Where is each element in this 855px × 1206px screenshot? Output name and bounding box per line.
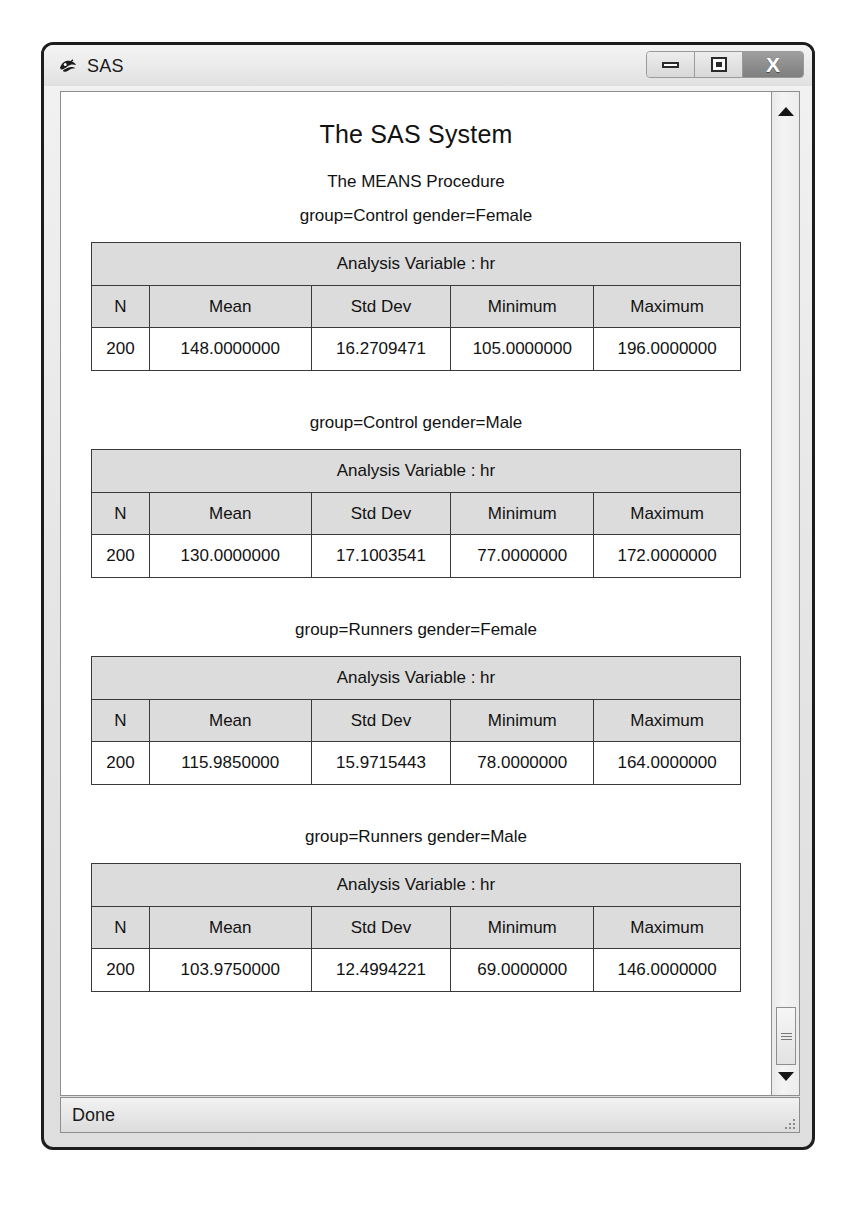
column-header-maximum: Maximum bbox=[594, 286, 741, 328]
analysis-variable-caption: Analysis Variable : hr bbox=[92, 243, 741, 286]
scrollbar-grip-icon bbox=[781, 1031, 792, 1042]
cell-mean: 103.9750000 bbox=[149, 949, 311, 992]
minimize-icon bbox=[662, 62, 679, 68]
column-header-mean: Mean bbox=[149, 700, 311, 742]
column-header-minimum: Minimum bbox=[451, 700, 594, 742]
analysis-variable-caption: Analysis Variable : hr bbox=[92, 450, 741, 493]
means-table-1: Analysis Variable : hr N Mean Std Dev Mi… bbox=[91, 449, 741, 578]
cell-std-dev: 15.9715443 bbox=[311, 742, 451, 785]
by-line-2: group=Runners gender=Female bbox=[61, 620, 771, 640]
cell-minimum: 78.0000000 bbox=[451, 742, 594, 785]
window-title: SAS bbox=[87, 57, 124, 75]
maximize-icon bbox=[711, 57, 727, 72]
window-controls: X bbox=[646, 51, 804, 78]
cell-n: 200 bbox=[92, 742, 150, 785]
close-icon: X bbox=[766, 54, 780, 75]
column-header-mean: Mean bbox=[149, 493, 311, 535]
cell-maximum: 172.0000000 bbox=[594, 535, 741, 578]
table-header-row: N Mean Std Dev Minimum Maximum bbox=[92, 700, 741, 742]
sas-logo-icon bbox=[58, 56, 78, 76]
scrollbar-thumb[interactable] bbox=[776, 1007, 796, 1065]
table-row: 200 115.9850000 15.9715443 78.0000000 16… bbox=[92, 742, 741, 785]
vertical-scrollbar[interactable] bbox=[771, 92, 799, 1095]
by-line-0: group=Control gender=Female bbox=[61, 206, 771, 226]
analysis-variable-caption: Analysis Variable : hr bbox=[92, 657, 741, 700]
cell-mean: 115.9850000 bbox=[149, 742, 311, 785]
column-header-maximum: Maximum bbox=[594, 700, 741, 742]
scroll-up-arrow-icon bbox=[778, 107, 794, 116]
cell-n: 200 bbox=[92, 535, 150, 578]
report-title: The SAS System bbox=[61, 120, 771, 149]
table-caption-row: Analysis Variable : hr bbox=[92, 657, 741, 700]
column-header-maximum: Maximum bbox=[594, 493, 741, 535]
cell-std-dev: 12.4994221 bbox=[311, 949, 451, 992]
status-text: Done bbox=[72, 1105, 115, 1126]
close-button[interactable]: X bbox=[743, 52, 803, 77]
cell-mean: 130.0000000 bbox=[149, 535, 311, 578]
scroll-down-button[interactable] bbox=[772, 1063, 799, 1089]
report-document: The SAS System The MEANS Procedure group… bbox=[61, 92, 771, 1095]
column-header-std-dev: Std Dev bbox=[311, 907, 451, 949]
column-header-std-dev: Std Dev bbox=[311, 700, 451, 742]
scroll-down-arrow-icon bbox=[778, 1072, 794, 1081]
column-header-maximum: Maximum bbox=[594, 907, 741, 949]
means-table-2: Analysis Variable : hr N Mean Std Dev Mi… bbox=[91, 656, 741, 785]
column-header-minimum: Minimum bbox=[451, 286, 594, 328]
scroll-up-button[interactable] bbox=[772, 98, 799, 124]
table-row: 200 130.0000000 17.1003541 77.0000000 17… bbox=[92, 535, 741, 578]
table-caption-row: Analysis Variable : hr bbox=[92, 864, 741, 907]
table-row: 200 103.9750000 12.4994221 69.0000000 14… bbox=[92, 949, 741, 992]
screenshot-root: SAS X The SAS System The MEANS Procedure bbox=[0, 0, 855, 1206]
minimize-button[interactable] bbox=[647, 52, 695, 77]
table-header-row: N Mean Std Dev Minimum Maximum bbox=[92, 907, 741, 949]
means-table-0: Analysis Variable : hr N Mean Std Dev Mi… bbox=[91, 242, 741, 371]
analysis-variable-caption: Analysis Variable : hr bbox=[92, 864, 741, 907]
cell-minimum: 105.0000000 bbox=[451, 328, 594, 371]
table-caption-row: Analysis Variable : hr bbox=[92, 243, 741, 286]
status-bar: Done bbox=[60, 1097, 800, 1133]
table-header-row: N Mean Std Dev Minimum Maximum bbox=[92, 493, 741, 535]
maximize-button[interactable] bbox=[695, 52, 743, 77]
cell-n: 200 bbox=[92, 328, 150, 371]
procedure-label: The MEANS Procedure bbox=[61, 172, 771, 192]
column-header-minimum: Minimum bbox=[451, 493, 594, 535]
table-caption-row: Analysis Variable : hr bbox=[92, 450, 741, 493]
column-header-n: N bbox=[92, 700, 150, 742]
by-line-1: group=Control gender=Male bbox=[61, 413, 771, 433]
client-area: The SAS System The MEANS Procedure group… bbox=[60, 91, 800, 1096]
sas-window: SAS X The SAS System The MEANS Procedure bbox=[41, 42, 815, 1150]
title-bar[interactable]: SAS X bbox=[44, 45, 812, 86]
cell-mean: 148.0000000 bbox=[149, 328, 311, 371]
column-header-n: N bbox=[92, 907, 150, 949]
column-header-minimum: Minimum bbox=[451, 907, 594, 949]
cell-maximum: 196.0000000 bbox=[594, 328, 741, 371]
column-header-std-dev: Std Dev bbox=[311, 286, 451, 328]
table-row: 200 148.0000000 16.2709471 105.0000000 1… bbox=[92, 328, 741, 371]
resize-grip-icon[interactable] bbox=[781, 1115, 795, 1129]
column-header-mean: Mean bbox=[149, 286, 311, 328]
cell-std-dev: 16.2709471 bbox=[311, 328, 451, 371]
column-header-n: N bbox=[92, 493, 150, 535]
column-header-std-dev: Std Dev bbox=[311, 493, 451, 535]
cell-maximum: 146.0000000 bbox=[594, 949, 741, 992]
table-header-row: N Mean Std Dev Minimum Maximum bbox=[92, 286, 741, 328]
column-header-n: N bbox=[92, 286, 150, 328]
column-header-mean: Mean bbox=[149, 907, 311, 949]
cell-std-dev: 17.1003541 bbox=[311, 535, 451, 578]
means-table-3: Analysis Variable : hr N Mean Std Dev Mi… bbox=[91, 863, 741, 992]
cell-minimum: 69.0000000 bbox=[451, 949, 594, 992]
cell-n: 200 bbox=[92, 949, 150, 992]
by-line-3: group=Runners gender=Male bbox=[61, 827, 771, 847]
cell-minimum: 77.0000000 bbox=[451, 535, 594, 578]
cell-maximum: 164.0000000 bbox=[594, 742, 741, 785]
